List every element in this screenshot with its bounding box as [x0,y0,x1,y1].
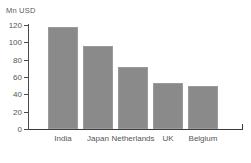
x-axis-label: Belgium [189,134,218,143]
bar [83,46,113,129]
bar-chart: Mn USD 020406080100120 IndiaJapanNetherl… [0,0,251,163]
bar [118,67,148,129]
bar [153,83,183,129]
x-axis-label: Netherlands [111,134,154,143]
x-axis-label: Japan [87,134,109,143]
x-axis-label: UK [162,134,173,143]
x-axis-label: India [54,134,71,143]
bar [48,27,78,129]
bar [188,86,218,129]
